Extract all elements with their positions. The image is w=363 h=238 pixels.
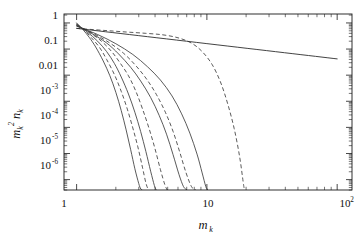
- svg-text:10: 10: [40, 159, 52, 171]
- svg-text:10: 10: [40, 134, 52, 146]
- y-tick-label-1: 1: [53, 9, 59, 21]
- figure-container: 1 10 10 2 1 0.1 0.01 10 -3 10 -4 10 -5 1…: [0, 0, 363, 238]
- svg-text:10: 10: [40, 109, 52, 121]
- y-tick-label-1e-5: 10 -5: [40, 133, 58, 146]
- y-axis-title: mk2nk: [7, 109, 25, 139]
- y-tick-label-0.1: 0.1: [44, 34, 58, 46]
- loglog-plot: 1 10 10 2 1 0.1 0.01 10 -3 10 -4 10 -5 1…: [0, 0, 363, 238]
- y-tick-label-1e-6: 10 -6: [40, 158, 58, 171]
- svg-text:10: 10: [40, 84, 52, 96]
- x-axis-title-text: m: [198, 218, 207, 232]
- y-tick-label-0.01: 0.01: [39, 59, 58, 71]
- x-axis-title-subscript: k: [209, 225, 213, 234]
- y-tick-label-1e-4: 10 -4: [40, 108, 58, 121]
- x-tick-label-100: 10 2: [340, 196, 355, 209]
- x-tick-label-1: 1: [61, 197, 67, 209]
- y-tick-label-1e-3: 10 -3: [40, 83, 58, 96]
- x-axis-title: m k: [198, 218, 213, 234]
- plot-background: [64, 14, 352, 190]
- svg-text:-6: -6: [52, 158, 58, 166]
- y-axis-title-text: mk2nk: [7, 109, 25, 139]
- svg-text:-4: -4: [52, 108, 58, 116]
- x-tick-label-10: 10: [203, 197, 215, 209]
- svg-text:-5: -5: [52, 133, 58, 141]
- svg-text:-3: -3: [52, 83, 58, 91]
- svg-text:2: 2: [350, 196, 354, 204]
